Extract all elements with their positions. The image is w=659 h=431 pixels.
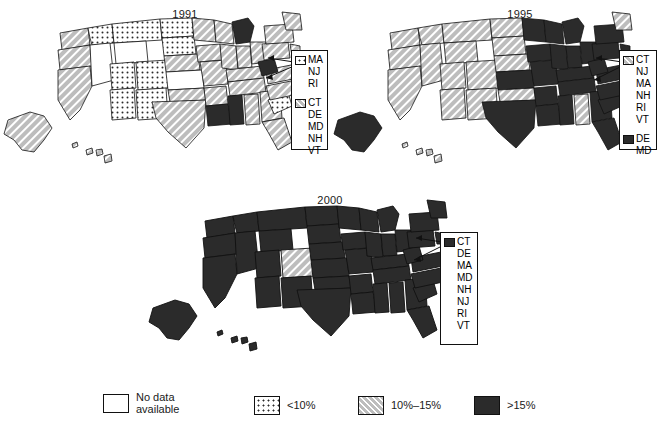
state-code: MD [457,272,473,284]
state-ut-1995 [440,62,466,90]
white-swatch [103,394,129,413]
state-id-2000 [233,212,259,233]
state-il-2000 [365,232,383,258]
state-il-1991 [220,44,238,70]
state-code: MA [457,260,472,272]
state-code: RI [308,78,318,90]
state-mn-1995 [522,18,546,42]
legend-row: NH [623,90,653,102]
state-code: CT [308,97,321,109]
legend-item-lt-10: <10% [254,396,315,415]
legend-group-hatched-1991: CT DE MD NH VT [295,97,324,157]
state-me-2000 [427,200,447,218]
state-tx-1991 [152,100,206,148]
hatched-swatch [295,99,306,108]
state-fl-1991 [262,118,292,150]
legend-row: CT [623,54,653,66]
state-ut-1991 [110,62,136,90]
legend-row: NJ [444,296,474,308]
state-wi-1995 [544,20,564,44]
legend-group-dark-2000: CT DE MA MD NH [444,236,474,332]
state-wy-1991 [114,41,148,64]
legend-row: DE [623,133,653,145]
state-id-1995 [418,24,444,45]
legend-row: RI [444,308,474,320]
state-ca-2000 [203,254,237,308]
side-legend-2000: CT DE MA MD NH [440,232,478,345]
state-mi-1991 [232,18,254,44]
state-code: MA [636,78,651,90]
state-code: VT [636,114,649,126]
state-al-1991 [244,94,260,125]
state-in-1995 [566,46,582,68]
legend-group-hatched-1995: CT NJ MA NH RI [623,54,653,126]
state-mn-2000 [337,206,361,230]
legend-item-label: No data available [136,392,179,415]
state-mt-1991 [112,19,162,43]
legend-item-label: <10% [287,400,315,412]
state-ar-1995 [534,86,558,106]
state-code: NH [457,284,471,296]
legend-row: CT [295,97,324,109]
state-wi-1991 [214,20,234,44]
state-az-1991 [110,88,136,120]
state-code: DE [457,248,471,260]
state-ak-2000 [149,300,197,340]
state-ia-2000 [341,232,367,250]
state-ia-1995 [526,44,552,62]
side-legend-1995: CT NJ MA NH RI [619,50,657,150]
state-in-1991 [236,46,252,68]
state-code: VT [457,320,470,332]
legend-row: VT [623,114,653,126]
map-panel-1991: 1991 [0,0,330,180]
state-ms-2000 [373,283,389,313]
state-ar-1991 [204,86,228,106]
state-code: NJ [636,66,648,78]
state-ak-1991 [4,112,52,152]
state-fl-2000 [407,306,437,338]
state-fl-1995 [592,118,622,150]
state-mi-1995 [562,18,584,44]
state-sd-2000 [307,224,341,244]
state-la-2000 [351,292,377,314]
state-ak-1995 [334,112,382,152]
state-az-1995 [440,88,466,120]
dark-swatch [623,135,634,144]
state-wy-1995 [444,41,478,64]
legend-item-label: 10%–15% [391,400,441,412]
legend-row: MD [623,145,653,157]
us-map-1995 [330,0,659,180]
state-mn-1991 [192,18,216,42]
legend-row: MA [444,260,474,272]
state-sd-1995 [492,36,526,56]
state-ms-1995 [558,95,574,125]
state-sd-1991 [162,36,196,56]
hatched-swatch [358,396,384,415]
legend-row: MA [295,54,324,66]
state-code: VT [308,145,321,157]
legend-row: NJ [295,66,324,78]
state-wi-2000 [359,208,379,232]
state-nd-2000 [305,206,339,226]
state-ks-1991 [166,70,204,90]
state-nd-1991 [160,18,194,38]
figure-canvas: 1991 [0,0,659,431]
legend-row: NH [295,133,324,145]
state-hi-1991 [72,142,112,163]
us-map-1991 [0,0,330,180]
state-tx-2000 [297,288,351,336]
state-tx-1995 [482,100,536,148]
legend-row: RI [295,78,324,90]
legend-label-line1: No data [136,391,175,403]
legend-gap [295,90,324,97]
state-code: NJ [457,296,469,308]
state-pa-1991 [262,42,290,60]
state-code: CT [636,54,649,66]
state-ks-1995 [496,70,534,90]
state-az-2000 [255,276,281,308]
state-la-1995 [536,104,562,126]
hatched-swatch [623,56,634,65]
legend-row: NJ [623,66,653,78]
state-code: CT [457,236,470,248]
state-ca-1995 [388,66,422,120]
